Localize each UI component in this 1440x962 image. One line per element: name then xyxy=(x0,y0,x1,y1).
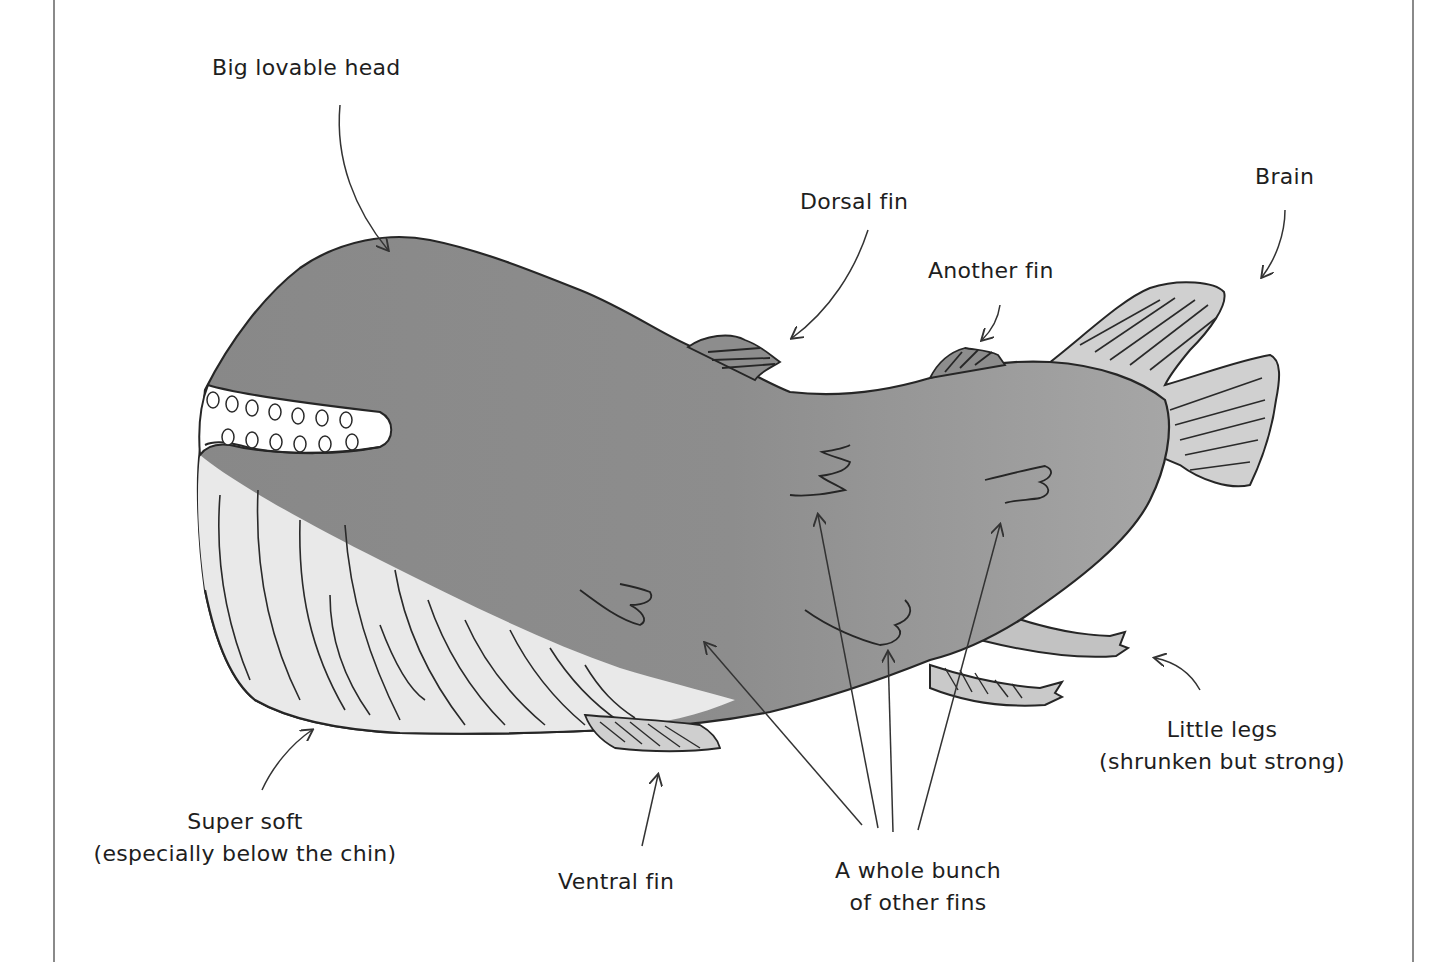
creature-body xyxy=(198,237,1169,734)
arrow-brain xyxy=(1262,210,1285,277)
arrow-soft xyxy=(262,730,312,790)
label-dorsal-fin: Dorsal fin xyxy=(800,186,908,218)
label-little-legs: Little legs (shrunken but strong) xyxy=(1072,714,1372,778)
arrow-another-fin xyxy=(982,305,1000,340)
label-brain: Brain xyxy=(1255,161,1314,193)
label-another-fin: Another fin xyxy=(928,255,1054,287)
arrow-ventral xyxy=(642,775,658,846)
label-super-soft: Super soft (especially below the chin) xyxy=(75,806,415,870)
arrow-legs xyxy=(1155,658,1200,690)
label-big-lovable-head: Big lovable head xyxy=(212,52,401,84)
label-ventral-fin: Ventral fin xyxy=(558,866,674,898)
arrow-dorsal xyxy=(792,230,868,338)
arrow-head xyxy=(339,105,388,250)
label-other-fins: A whole bunch of other fins xyxy=(808,855,1028,919)
arrow-fins-3 xyxy=(888,652,893,832)
